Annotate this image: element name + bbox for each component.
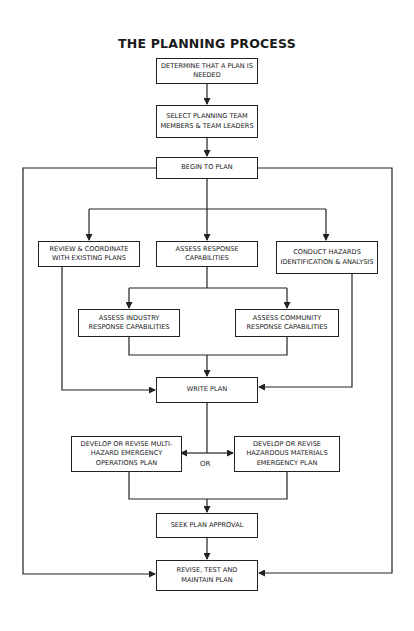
node-assess-response: ASSESS RESPONSE CAPABILITIES [156, 241, 258, 267]
node-assess-industry: ASSESS INDUSTRY RESPONSE CAPABILITIES [78, 309, 180, 337]
node-assess-community: ASSESS COMMUNITY RESPONSE CAPABILITIES [235, 309, 339, 337]
node-select-team: SELECT PLANNING TEAM MEMBERS & TEAM LEAD… [156, 105, 258, 138]
node-hazmat: DEVELOP OR REVISE HAZARDOUS MATERIALS EM… [234, 436, 340, 472]
node-begin: BEGIN TO PLAN [156, 157, 258, 179]
or-label: OR [200, 460, 210, 468]
node-revise-test-maintain: REVISE, TEST AND MAINTAIN PLAN [156, 560, 258, 591]
node-multi-hazard: DEVELOP OR REVISE MULTI-HAZARD EMERGENCY… [71, 436, 182, 472]
node-determine: DETERMINE THAT A PLAN IS NEEDED [156, 58, 258, 84]
node-seek-approval: SEEK PLAN APPROVAL [156, 513, 258, 538]
node-review: REVIEW & COORDINATE WITH EXISTING PLANS [38, 241, 140, 267]
node-conduct-hazards: CONDUCT HAZARDS IDENTIFICATION & ANALYSI… [276, 241, 378, 274]
node-write-plan: WRITE PLAN [156, 377, 258, 403]
